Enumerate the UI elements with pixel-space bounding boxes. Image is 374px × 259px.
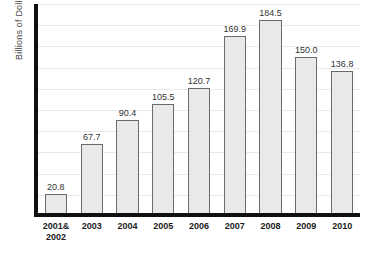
bar-value-label: 20.8 bbox=[47, 182, 65, 192]
y-axis-label: Billions of Dollars bbox=[14, 0, 28, 60]
x-tick-label: 2008 bbox=[253, 221, 289, 243]
plot-area: 20.867.790.4105.5120.7169.9184.5150.0136… bbox=[38, 4, 360, 216]
bar[interactable]: 67.7 bbox=[81, 144, 103, 216]
x-tick-label: 2001&2002 bbox=[38, 221, 74, 243]
x-tick-label: 2007 bbox=[217, 221, 253, 243]
bar-slot: 20.8 bbox=[38, 4, 74, 216]
x-tick-label: 2005 bbox=[145, 221, 181, 243]
x-tick-label: 2003 bbox=[74, 221, 110, 243]
bar[interactable]: 90.4 bbox=[116, 120, 138, 216]
bar-value-label: 120.7 bbox=[188, 76, 211, 86]
x-tick-label: 2009 bbox=[288, 221, 324, 243]
bar[interactable]: 150.0 bbox=[295, 57, 317, 216]
bar-slot: 67.7 bbox=[74, 4, 110, 216]
bar-slot: 150.0 bbox=[288, 4, 324, 216]
bar-slot: 105.5 bbox=[145, 4, 181, 216]
bar-value-label: 150.0 bbox=[295, 45, 318, 55]
bar-value-label: 184.5 bbox=[259, 8, 282, 18]
bar-value-label: 67.7 bbox=[83, 132, 101, 142]
bar[interactable]: 169.9 bbox=[224, 36, 246, 216]
bar-value-label: 136.8 bbox=[331, 59, 354, 69]
bar-value-label: 105.5 bbox=[152, 92, 175, 102]
bar-chart: Billions of Dollars 20.867.790.4105.5120… bbox=[0, 0, 374, 259]
bar-value-label: 169.9 bbox=[224, 24, 247, 34]
bar-slot: 136.8 bbox=[324, 4, 360, 216]
bar[interactable]: 136.8 bbox=[331, 71, 353, 216]
x-axis-line bbox=[34, 213, 360, 217]
bar-value-label: 90.4 bbox=[119, 108, 137, 118]
bar-slot: 169.9 bbox=[217, 4, 253, 216]
bar[interactable]: 105.5 bbox=[152, 104, 174, 216]
x-tick-label: 2010 bbox=[324, 221, 360, 243]
bar[interactable]: 120.7 bbox=[188, 88, 210, 216]
x-tick-label: 2004 bbox=[110, 221, 146, 243]
bar-slot: 184.5 bbox=[253, 4, 289, 216]
x-tick-label: 2006 bbox=[181, 221, 217, 243]
bar-slot: 90.4 bbox=[110, 4, 146, 216]
bar[interactable]: 184.5 bbox=[259, 20, 281, 216]
bar-slot: 120.7 bbox=[181, 4, 217, 216]
bar-series: 20.867.790.4105.5120.7169.9184.5150.0136… bbox=[38, 4, 360, 216]
x-axis-tick-labels: 2001&20022003200420052006200720082009201… bbox=[38, 221, 360, 243]
y-axis-line bbox=[34, 4, 38, 217]
